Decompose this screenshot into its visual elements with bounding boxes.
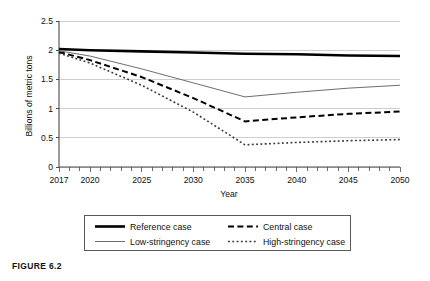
y-axis-ticks: 00.511.522.5 (41, 16, 59, 172)
y-tick-label: 1.5 (41, 74, 53, 84)
legend-label-reference-case: Reference case (130, 222, 192, 232)
y-tick-label: 1 (48, 104, 53, 114)
x-tick-label: 2020 (80, 175, 99, 185)
figure-container: 00.511.522.5 201720202025203020352040204… (0, 0, 430, 281)
x-axis-tick-labels: 20172020202520302035204020452050 (49, 175, 409, 185)
legend-label-low-stringency-case: Low-stringency case (130, 237, 210, 247)
y-tick-label: 2 (48, 45, 53, 55)
y-tick-label: 0 (48, 162, 53, 172)
data-series-layer (59, 49, 400, 145)
legend-label-high-stringency-case: High-stringency case (263, 237, 345, 247)
x-axis-minor-ticks (59, 167, 400, 172)
x-tick-label: 2035 (235, 175, 254, 185)
x-tick-label: 2040 (287, 175, 306, 185)
y-axis-title: Billions of metric tons (24, 55, 34, 136)
figure-caption: FIGURE 6.2 (12, 261, 62, 271)
chart-legend: Reference caseCentral caseLow-stringency… (85, 216, 351, 251)
x-tick-label: 2045 (339, 175, 358, 185)
x-tick-label: 2030 (184, 175, 203, 185)
legend-label-central-case: Central case (263, 222, 312, 232)
series-line-high-stringency-case (59, 53, 400, 145)
x-tick-label: 2025 (132, 175, 151, 185)
x-tick-label: 2050 (390, 175, 409, 185)
series-line-central-case (59, 52, 400, 122)
gridlines (59, 21, 400, 167)
y-tick-label: 0.5 (41, 133, 53, 143)
series-line-low-stringency-case (59, 51, 400, 97)
x-axis-title: Year (220, 189, 238, 199)
y-tick-label: 2.5 (41, 16, 53, 26)
x-tick-label: 2017 (49, 175, 68, 185)
emissions-line-chart: 00.511.522.5 201720202025203020352040204… (0, 0, 430, 281)
